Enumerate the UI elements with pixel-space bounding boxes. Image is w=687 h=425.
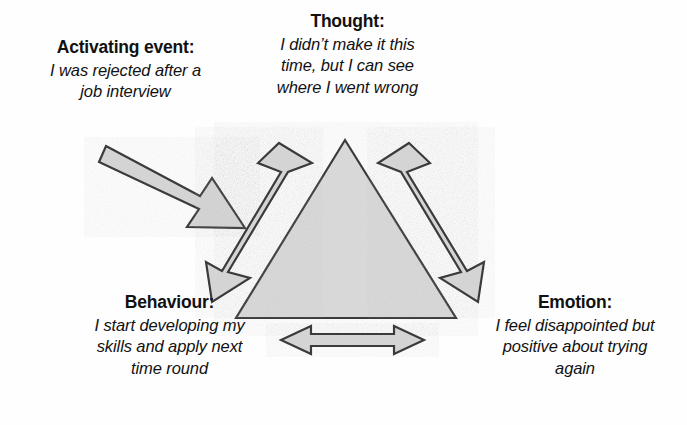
node-thought-line-1: I didn’t make it this (245, 34, 450, 55)
node-activating-event-line-2: job interview (18, 81, 233, 102)
node-activating-event-body: I was rejected after a job interview (18, 60, 233, 103)
node-behaviour-line-3: time round (62, 358, 277, 379)
node-behaviour-line-1: I start developing my (62, 315, 277, 336)
node-thought: Thought: I didn’t make it this time, but… (245, 10, 450, 98)
node-emotion-title: Emotion: (466, 291, 684, 314)
node-behaviour: Behaviour: I start developing my skills … (62, 291, 277, 379)
node-activating-event-title: Activating event: (18, 36, 233, 59)
node-thought-body: I didn’t make it this time, but I can se… (245, 34, 450, 98)
node-activating-event: Activating event: I was rejected after a… (18, 36, 233, 103)
activating-event-to-triangle-arrow (99, 146, 245, 228)
node-activating-event-line-1: I was rejected after a (18, 60, 233, 81)
node-behaviour-body: I start developing my skills and apply n… (62, 315, 277, 379)
node-emotion-line-1: I feel disappointed but (466, 315, 684, 336)
node-thought-line-3: where I went wrong (245, 77, 450, 98)
cbt-triangle-diagram: Thought: I didn’t make it this time, but… (0, 0, 687, 425)
node-emotion-line-3: again (466, 358, 684, 379)
node-emotion-body: I feel disappointed but positive about t… (466, 315, 684, 379)
node-thought-line-2: time, but I can see (245, 55, 450, 76)
node-emotion-line-2: positive about trying (466, 336, 684, 357)
node-behaviour-line-2: skills and apply next (62, 336, 277, 357)
behaviour-emotion-arrow (281, 326, 424, 354)
node-emotion: Emotion: I feel disappointed but positiv… (466, 291, 684, 379)
node-behaviour-title: Behaviour: (62, 291, 277, 314)
node-thought-title: Thought: (245, 10, 450, 33)
